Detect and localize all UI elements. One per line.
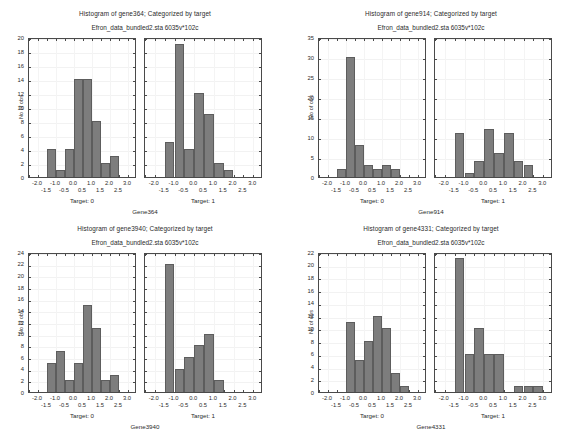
histogram-bar <box>391 373 400 392</box>
x-tickmark <box>155 390 156 392</box>
y-tick-label: 22 <box>299 250 314 256</box>
y-tickmark-right <box>549 267 551 268</box>
gridline-horizontal <box>29 67 135 68</box>
x-tickmark <box>435 175 436 177</box>
panel-subtitle: Efron_data_bundled2.sta 6035v*102c <box>290 239 572 247</box>
y-tickmark-right <box>259 123 261 124</box>
x-tick-label-lower: 1.5 <box>91 402 109 408</box>
gridline-horizontal <box>319 99 425 100</box>
y-tickmark-right <box>549 279 551 280</box>
x-tickmark <box>328 390 329 392</box>
x-tick-label-upper: 2.0 <box>514 180 532 186</box>
x-tickmark <box>145 390 146 392</box>
y-tick-label: 24 <box>9 250 24 256</box>
y-tickmark-right <box>549 59 551 60</box>
target-caption-1: Target: 1 <box>434 412 552 419</box>
y-tickmark-right <box>259 371 261 372</box>
y-tickmark <box>145 301 147 302</box>
gridline-horizontal <box>29 312 135 313</box>
y-tickmark <box>435 267 437 268</box>
x-tick-label-upper: -1.0 <box>46 180 64 186</box>
histogram-bar <box>194 93 204 177</box>
gridline-vertical <box>128 39 129 177</box>
y-tickmark-right <box>549 254 551 255</box>
y-tickmark-right <box>549 39 551 40</box>
y-tick-label: 0 <box>299 175 314 181</box>
histogram-panel-gene914: Histogram of gene914; Categorized by tar… <box>290 0 572 215</box>
gridline-horizontal <box>435 292 551 293</box>
y-tickmark-right <box>423 254 425 255</box>
x-tickmark <box>234 175 235 177</box>
y-tickmark <box>319 159 321 160</box>
panel-subtitle: Efron_data_bundled2.sta 6035v*102c <box>0 24 290 32</box>
x-tick-label-lower: 0.5 <box>194 187 212 193</box>
x-tickmark <box>337 390 338 392</box>
x-tickmark-top <box>533 39 534 41</box>
y-tickmark-right <box>549 305 551 306</box>
gridline-horizontal <box>435 99 551 100</box>
y-tickmark <box>145 67 147 68</box>
x-tick-label-upper: 2.0 <box>224 180 242 186</box>
y-tickmark-right <box>133 382 135 383</box>
y-tickmark <box>435 305 437 306</box>
y-tickmark-right <box>549 343 551 344</box>
histogram-bar <box>56 170 65 177</box>
y-tickmark-right <box>423 381 425 382</box>
histogram-bar <box>74 363 83 392</box>
gridline-horizontal <box>319 79 425 80</box>
x-tick-label-upper: -2.0 <box>435 395 453 401</box>
y-tickmark <box>319 318 321 319</box>
y-tick-label: 20 <box>299 95 314 101</box>
x-tickmark-top <box>346 254 347 256</box>
x-tick-label-upper: -1.0 <box>165 395 183 401</box>
y-tickmark-right <box>423 330 425 331</box>
plot-area-target1 <box>144 38 262 178</box>
histogram-bar <box>355 145 364 177</box>
y-tickmark <box>435 59 437 60</box>
gridline-vertical <box>400 254 401 392</box>
x-tickmark-top <box>543 254 544 256</box>
x-tick-label-upper: -2.0 <box>28 180 46 186</box>
x-tickmark-top <box>184 254 185 256</box>
gridline-vertical <box>418 254 419 392</box>
gridline-vertical <box>328 39 329 177</box>
y-tickmark-right <box>549 356 551 357</box>
y-tickmark-right <box>133 53 135 54</box>
x-tickmark-top <box>253 254 254 256</box>
panel-title: Histogram of gene914; Categorized by tar… <box>290 10 572 18</box>
y-tickmark-right <box>133 324 135 325</box>
x-tick-label-upper: 3.0 <box>243 395 261 401</box>
x-tickmark-top <box>337 254 338 256</box>
y-tickmark-right <box>259 39 261 40</box>
y-tickmark-right <box>259 67 261 68</box>
gridline-horizontal <box>145 277 261 278</box>
gridline-horizontal <box>319 292 425 293</box>
histogram-bar <box>400 386 409 392</box>
x-tickmark-top <box>382 39 383 41</box>
y-tick-label: 14 <box>299 300 314 306</box>
x-tick-label-upper: -2.0 <box>435 180 453 186</box>
x-tickmark-top <box>110 39 111 41</box>
y-tickmark-right <box>133 336 135 337</box>
y-tickmark <box>29 81 31 82</box>
x-tickmark <box>418 175 419 177</box>
x-tickmark-top <box>474 254 475 256</box>
y-tickmark-right <box>549 330 551 331</box>
x-tickmark-top <box>47 39 48 41</box>
x-tick-label-upper: 2.0 <box>390 395 408 401</box>
x-tick-label-lower: 0.5 <box>484 187 502 193</box>
x-tick-label-upper: -2.0 <box>145 180 163 186</box>
y-axis-label: No of obs <box>308 303 314 341</box>
y-tickmark <box>435 381 437 382</box>
x-tickmark-top <box>119 254 120 256</box>
x-tickmark-top <box>409 39 410 41</box>
target-caption-0: Target: 0 <box>28 412 136 419</box>
gridline-vertical <box>155 254 156 392</box>
x-tick-label-lower: -0.5 <box>345 402 363 408</box>
gene-caption: Gene4331 <box>290 423 572 430</box>
y-tickmark <box>145 324 147 325</box>
gridline-horizontal <box>145 301 261 302</box>
y-tickmark <box>145 95 147 96</box>
x-tick-label-upper: 3.0 <box>408 180 426 186</box>
y-tickmark-right <box>133 254 135 255</box>
